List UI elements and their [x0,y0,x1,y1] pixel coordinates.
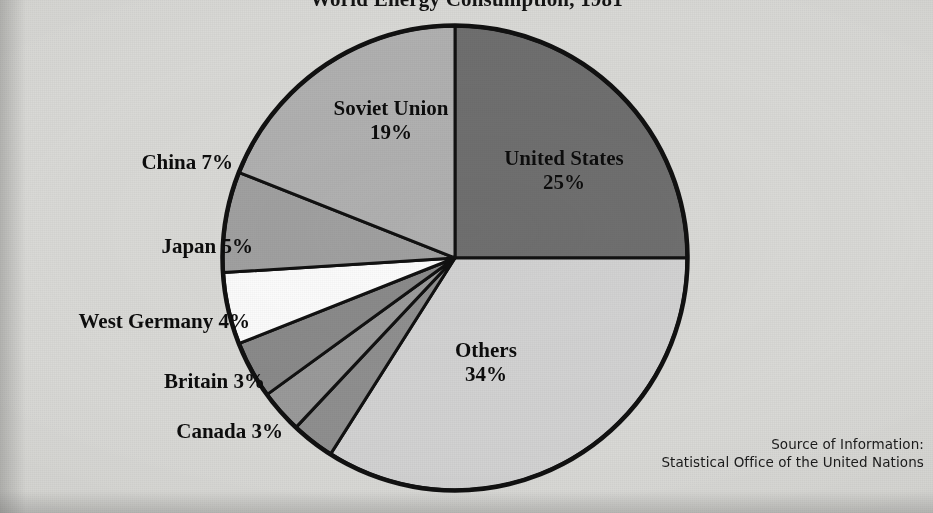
slice-label-others: Others 34% [455,338,575,387]
slice-label-others-name: Others [455,338,575,362]
slice-label-united-states-name: United States [464,146,664,170]
slice-label-soviet-union-name: Soviet Union [296,96,486,120]
slice-label-canada: Canada 3% [176,419,283,444]
pie-svg [219,22,691,494]
slice-label-united-states-value: 25% [464,170,664,194]
scan-edge-shadow-bottom [0,491,933,513]
source-note-line2: Statistical Office of the United Nations [661,453,924,471]
source-note: Source of Information: Statistical Offic… [661,435,924,471]
pie-chart [219,22,691,494]
slice-label-soviet-union-value: 19% [296,120,486,144]
slice-label-soviet-union: Soviet Union 19% [296,96,486,145]
slice-label-japan: Japan 5% [161,234,253,259]
slice-label-britain: Britain 3% [164,369,265,394]
page-title: World Energy Consumption, 1981 [0,0,933,12]
slice-label-united-states: United States 25% [464,146,664,195]
slice-label-china: China 7% [141,150,233,175]
pie-slice-united-states [455,26,687,258]
slice-label-others-value: 34% [455,362,575,386]
scan-edge-shadow-left [0,0,26,513]
source-note-line1: Source of Information: [661,435,924,453]
slice-label-west-germany: West Germany 4% [79,309,250,334]
